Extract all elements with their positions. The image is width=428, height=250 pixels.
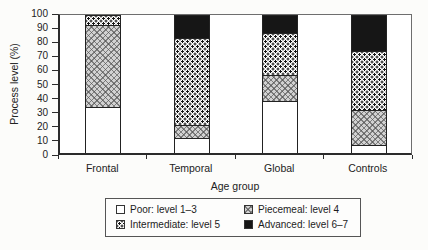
bar-segment [86, 108, 120, 153]
legend-swatch-icon [244, 220, 253, 229]
y-tick [52, 56, 58, 57]
x-tick [412, 155, 413, 159]
y-tick-label: 50 [0, 79, 48, 91]
legend-item: Advanced: level 6–7 [244, 219, 352, 230]
y-tick [52, 126, 58, 127]
y-tick-label: 80 [0, 36, 48, 48]
bar-segment [352, 16, 386, 52]
bar-segment [86, 26, 120, 108]
bar-segment [263, 102, 297, 153]
y-tick-label: 70 [0, 50, 48, 62]
bar-segment [263, 76, 297, 102]
bar-segment [352, 52, 386, 111]
bar-segment [352, 111, 386, 147]
bar-temporal [174, 15, 210, 153]
bar-segment [352, 146, 386, 153]
legend-label: Piecemeal: level 4 [258, 204, 339, 215]
legend-swatch-icon [116, 220, 125, 229]
y-tick-label: 40 [0, 93, 48, 105]
x-tick [323, 155, 324, 159]
y-tick-label: 100 [0, 8, 48, 20]
x-tick-label: Controls [324, 162, 413, 174]
bar-frontal [85, 15, 121, 153]
y-tick-label: 90 [0, 22, 48, 34]
y-tick-label: 20 [0, 121, 48, 133]
bar-segment [175, 39, 209, 125]
legend-swatch-icon [244, 205, 253, 214]
y-tick [52, 84, 58, 85]
bar-global [262, 15, 298, 153]
bar-segment [175, 139, 209, 153]
legend-item: Intermediate: level 5 [116, 219, 244, 230]
y-tick-label: 60 [0, 64, 48, 76]
legend-label: Advanced: level 6–7 [258, 219, 348, 230]
x-tick [58, 155, 59, 159]
bar-segment [263, 16, 297, 34]
x-tick [146, 155, 147, 159]
y-tick [52, 28, 58, 29]
y-tick [52, 42, 58, 43]
y-tick [52, 14, 58, 15]
bar-segment [175, 126, 209, 140]
bar-controls [351, 15, 387, 153]
y-tick [52, 98, 58, 99]
x-axis-title: Age group [58, 180, 412, 192]
y-tick-label: 30 [0, 107, 48, 119]
bar-segment [263, 34, 297, 76]
y-tick [52, 70, 58, 71]
legend-item: Piecemeal: level 4 [244, 204, 352, 215]
y-tick [52, 112, 58, 113]
x-tick-label: Temporal [147, 162, 236, 174]
y-tick-label: 0 [0, 149, 48, 161]
legend-swatch-icon [116, 205, 125, 214]
legend: Poor: level 1–3Piecemeal: level 4Interme… [105, 198, 361, 237]
y-tick [52, 140, 58, 141]
legend-item: Poor: level 1–3 [116, 204, 244, 215]
x-tick-label: Global [235, 162, 324, 174]
legend-label: Poor: level 1–3 [130, 204, 197, 215]
y-tick-label: 10 [0, 135, 48, 147]
legend-label: Intermediate: level 5 [130, 219, 220, 230]
bar-segment [175, 16, 209, 39]
plot-area [58, 14, 412, 155]
x-tick [235, 155, 236, 159]
bar-segment [86, 16, 120, 26]
x-tick-label: Frontal [58, 162, 147, 174]
chart-figure: Process level (%) FrontalTemporalGlobalC… [0, 0, 428, 250]
